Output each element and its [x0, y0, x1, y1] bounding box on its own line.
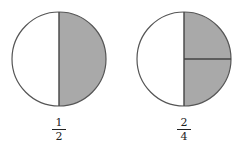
fraction-label-one-half: 1 2 — [49, 117, 69, 142]
denominator: 2 — [49, 131, 69, 142]
circle-one-half — [12, 12, 106, 106]
numerator: 2 — [174, 117, 194, 128]
denominator: 4 — [174, 131, 194, 142]
fraction-label-two-fourths: 2 4 — [174, 117, 194, 142]
circle-two-fourths — [137, 12, 231, 106]
fraction-circles-diagram — [0, 0, 247, 147]
numerator: 1 — [49, 117, 69, 128]
shaded-half — [59, 12, 106, 106]
